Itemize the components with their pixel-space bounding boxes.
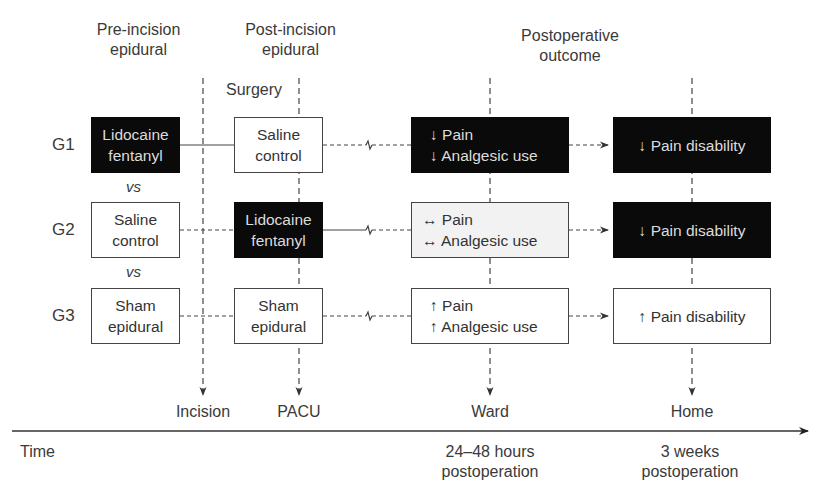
- g2-ward-outcome-box: ↔ Pain ↔ Analgesic use: [411, 202, 569, 258]
- group-label-g1: G1: [52, 135, 75, 155]
- event-ward: Ward: [455, 402, 525, 422]
- event-incision: Incision: [163, 402, 243, 422]
- home-time-label: 3 weeks postoperation: [620, 442, 760, 482]
- header-surgery: Surgery: [214, 80, 294, 100]
- g2-home-outcome-box: ↓ Pain disability: [613, 202, 771, 258]
- g3-ward-outcome-box: ↑ Pain ↑ Analgesic use: [411, 288, 569, 344]
- vs-label: vs: [126, 178, 141, 195]
- g1-post-incision-box: Saline control: [234, 117, 323, 173]
- time-axis-label: Time: [20, 442, 70, 462]
- group-label-g3: G3: [52, 306, 75, 326]
- ward-time-label: 24–48 hours postoperation: [420, 442, 560, 482]
- header-post-incision: Post-incision epidural: [228, 20, 353, 60]
- g2-post-incision-box: Lidocaine fentanyl: [234, 202, 323, 258]
- g3-pre-incision-box: Sham epidural: [91, 288, 180, 344]
- g1-ward-outcome-box: ↓ Pain ↓ Analgesic use: [411, 117, 569, 173]
- g3-post-incision-box: Sham epidural: [234, 288, 323, 344]
- event-pacu: PACU: [264, 402, 334, 422]
- g3-home-outcome-box: ↑ Pain disability: [613, 288, 771, 344]
- header-pre-incision: Pre-incision epidural: [76, 20, 201, 60]
- g1-pre-incision-box: Lidocaine fentanyl: [91, 117, 180, 173]
- g2-pre-incision-box: Saline control: [91, 202, 180, 258]
- group-label-g2: G2: [52, 220, 75, 240]
- header-postoperative-outcome: Postoperative outcome: [510, 26, 630, 66]
- event-home: Home: [657, 402, 727, 422]
- g1-home-outcome-box: ↓ Pain disability: [613, 117, 771, 173]
- vs-label: vs: [126, 263, 141, 280]
